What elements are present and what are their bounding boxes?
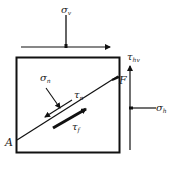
sigma-n-label: σn (40, 72, 51, 84)
stress-diagram: σv τhv F σh σn τn τf A (0, 0, 171, 170)
tau-n-arrow (45, 100, 72, 117)
F-label: F (118, 74, 127, 87)
sigma-v-label: σv (61, 4, 72, 16)
A-label: A (4, 136, 13, 149)
sigma-n-arrow (46, 88, 60, 108)
soil-element-square (17, 58, 120, 153)
failure-plane-AF (17, 76, 118, 140)
tau-hv-label: τhv (127, 51, 140, 63)
tau-f-arrow (53, 109, 86, 128)
F-tick (112, 77, 119, 80)
sigma-h-label: σh (156, 102, 167, 114)
tau-n-label: τn (74, 89, 84, 101)
sigma-h-arrowhead (129, 107, 133, 110)
tau-f-label: τf (72, 121, 82, 134)
